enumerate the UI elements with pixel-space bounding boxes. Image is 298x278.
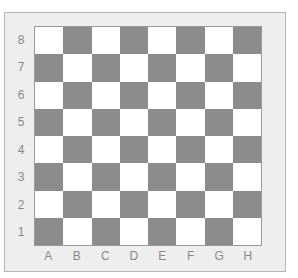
square-d3[interactable] xyxy=(120,163,148,190)
rank-label: 6 xyxy=(14,89,28,101)
square-h3[interactable] xyxy=(233,163,261,190)
file-label: G xyxy=(205,250,233,262)
square-b4[interactable] xyxy=(63,136,91,163)
square-d7[interactable] xyxy=(120,54,148,81)
square-h2[interactable] xyxy=(233,191,261,218)
chessboard[interactable] xyxy=(34,26,262,246)
square-d2[interactable] xyxy=(120,191,148,218)
rank-label: 5 xyxy=(14,116,28,128)
square-d1[interactable] xyxy=(120,218,148,245)
square-d6[interactable] xyxy=(120,82,148,109)
square-f3[interactable] xyxy=(176,163,204,190)
square-b5[interactable] xyxy=(63,109,91,136)
square-c8[interactable] xyxy=(92,27,120,54)
square-f4[interactable] xyxy=(176,136,204,163)
rank-label: 3 xyxy=(14,171,28,183)
square-c4[interactable] xyxy=(92,136,120,163)
square-f1[interactable] xyxy=(176,218,204,245)
file-label: A xyxy=(34,250,62,262)
square-a2[interactable] xyxy=(35,191,63,218)
square-e2[interactable] xyxy=(148,191,176,218)
square-f5[interactable] xyxy=(176,109,204,136)
square-e3[interactable] xyxy=(148,163,176,190)
square-a7[interactable] xyxy=(35,54,63,81)
square-b1[interactable] xyxy=(63,218,91,245)
square-e5[interactable] xyxy=(148,109,176,136)
file-label: D xyxy=(120,250,148,262)
file-label: E xyxy=(148,250,176,262)
file-label: B xyxy=(63,250,91,262)
square-e4[interactable] xyxy=(148,136,176,163)
square-f6[interactable] xyxy=(176,82,204,109)
rank-label: 4 xyxy=(14,144,28,156)
square-c1[interactable] xyxy=(92,218,120,245)
square-g6[interactable] xyxy=(205,82,233,109)
square-c3[interactable] xyxy=(92,163,120,190)
square-a1[interactable] xyxy=(35,218,63,245)
square-f8[interactable] xyxy=(176,27,204,54)
square-g8[interactable] xyxy=(205,27,233,54)
square-e1[interactable] xyxy=(148,218,176,245)
square-d8[interactable] xyxy=(120,27,148,54)
square-h1[interactable] xyxy=(233,218,261,245)
square-a8[interactable] xyxy=(35,27,63,54)
square-a3[interactable] xyxy=(35,163,63,190)
square-h6[interactable] xyxy=(233,82,261,109)
square-b8[interactable] xyxy=(63,27,91,54)
square-e6[interactable] xyxy=(148,82,176,109)
rank-label: 2 xyxy=(14,199,28,211)
square-d4[interactable] xyxy=(120,136,148,163)
rank-label: 1 xyxy=(14,226,28,238)
square-a4[interactable] xyxy=(35,136,63,163)
rank-label: 8 xyxy=(14,34,28,46)
square-g3[interactable] xyxy=(205,163,233,190)
square-h7[interactable] xyxy=(233,54,261,81)
square-b7[interactable] xyxy=(63,54,91,81)
square-c5[interactable] xyxy=(92,109,120,136)
square-g4[interactable] xyxy=(205,136,233,163)
square-a5[interactable] xyxy=(35,109,63,136)
square-f2[interactable] xyxy=(176,191,204,218)
square-b6[interactable] xyxy=(63,82,91,109)
square-h5[interactable] xyxy=(233,109,261,136)
square-e7[interactable] xyxy=(148,54,176,81)
square-g1[interactable] xyxy=(205,218,233,245)
square-b2[interactable] xyxy=(63,191,91,218)
square-g7[interactable] xyxy=(205,54,233,81)
rank-label: 7 xyxy=(14,61,28,73)
square-f7[interactable] xyxy=(176,54,204,81)
square-b3[interactable] xyxy=(63,163,91,190)
square-g5[interactable] xyxy=(205,109,233,136)
square-c7[interactable] xyxy=(92,54,120,81)
square-h8[interactable] xyxy=(233,27,261,54)
file-label: C xyxy=(91,250,119,262)
square-h4[interactable] xyxy=(233,136,261,163)
square-c6[interactable] xyxy=(92,82,120,109)
square-c2[interactable] xyxy=(92,191,120,218)
square-d5[interactable] xyxy=(120,109,148,136)
square-a6[interactable] xyxy=(35,82,63,109)
square-e8[interactable] xyxy=(148,27,176,54)
square-g2[interactable] xyxy=(205,191,233,218)
file-label: H xyxy=(234,250,262,262)
file-label: F xyxy=(177,250,205,262)
